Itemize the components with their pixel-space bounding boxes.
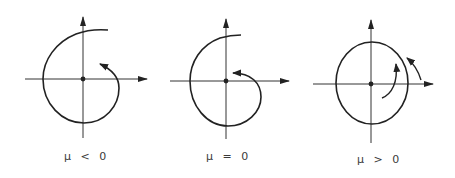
- label-mu-positive: μ > 0: [357, 153, 402, 166]
- fixed-point: [224, 79, 229, 84]
- label-mu-negative: μ < 0: [64, 150, 109, 163]
- inner-outward-arrow: [382, 64, 396, 98]
- panel-mu-zero: [170, 19, 289, 139]
- fixed-point: [81, 77, 86, 82]
- label-mu-zero: μ = 0: [206, 150, 251, 163]
- outer-inward-arrow: [407, 58, 421, 80]
- spiral-trajectory: [43, 30, 119, 123]
- panel-mu-positive: [313, 20, 433, 143]
- panel-mu-negative: [25, 17, 147, 138]
- fixed-point: [369, 82, 374, 87]
